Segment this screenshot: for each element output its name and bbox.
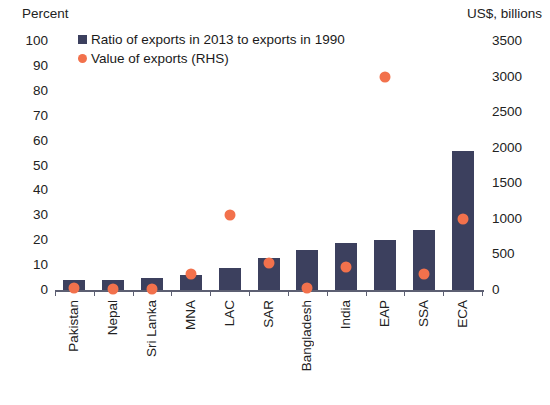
dot-bangladesh bbox=[302, 282, 313, 293]
right-tick-2000: 2000 bbox=[492, 141, 522, 155]
x-label-ssa: SSA bbox=[416, 300, 431, 327]
x-label-sar: SAR bbox=[261, 300, 276, 328]
dot-ssa bbox=[418, 268, 429, 279]
left-tick-100: 100 bbox=[8, 34, 48, 48]
left-axis-title: Percent bbox=[22, 6, 69, 21]
x-tick-mark bbox=[249, 292, 250, 296]
x-tick-mark bbox=[55, 292, 56, 296]
left-tick-60: 60 bbox=[8, 134, 48, 148]
x-label-india: India bbox=[338, 300, 353, 329]
x-tick-mark bbox=[404, 292, 405, 296]
left-tick-0: 0 bbox=[8, 283, 48, 297]
dot-sar bbox=[263, 257, 274, 268]
left-tick-20: 20 bbox=[8, 233, 48, 247]
dot-nepal bbox=[108, 284, 119, 295]
dot-india bbox=[341, 262, 352, 273]
right-tick-1500: 1500 bbox=[492, 177, 522, 191]
x-tick-mark bbox=[443, 292, 444, 296]
dot-sri-lanka bbox=[147, 283, 158, 294]
x-tick-mark bbox=[210, 292, 211, 296]
dot-mna bbox=[185, 268, 196, 279]
dot-lac bbox=[224, 210, 235, 221]
x-axis-baseline bbox=[55, 290, 484, 292]
right-axis-title: US$, billions bbox=[467, 6, 542, 21]
x-label-eca: ECA bbox=[455, 300, 470, 328]
left-tick-30: 30 bbox=[8, 209, 48, 223]
x-label-pakistan: Pakistan bbox=[66, 300, 81, 352]
dot-pakistan bbox=[69, 282, 80, 293]
x-tick-mark bbox=[366, 292, 367, 296]
x-tick-mark bbox=[327, 292, 328, 296]
right-tick-0: 0 bbox=[492, 283, 500, 297]
bar-ssa bbox=[413, 230, 435, 290]
left-tick-10: 10 bbox=[8, 258, 48, 272]
x-tick-mark bbox=[482, 292, 483, 296]
x-tick-mark bbox=[133, 292, 134, 296]
left-tick-90: 90 bbox=[8, 59, 48, 73]
right-tick-3000: 3000 bbox=[492, 70, 522, 84]
x-tick-mark bbox=[288, 292, 289, 296]
dot-eap bbox=[379, 71, 390, 82]
plot-area bbox=[55, 41, 482, 290]
left-tick-40: 40 bbox=[8, 184, 48, 198]
x-label-mna: MNA bbox=[183, 300, 198, 330]
bar-eap bbox=[374, 240, 396, 290]
x-label-lac: LAC bbox=[222, 300, 237, 326]
x-label-eap: EAP bbox=[377, 300, 392, 327]
x-tick-mark bbox=[94, 292, 95, 296]
x-tick-mark bbox=[171, 292, 172, 296]
export-ratio-chart: Percent US$, billions Ratio of exports i… bbox=[0, 0, 550, 405]
bar-lac bbox=[219, 268, 241, 290]
right-tick-500: 500 bbox=[492, 248, 515, 262]
right-tick-2500: 2500 bbox=[492, 105, 522, 119]
left-tick-50: 50 bbox=[8, 159, 48, 173]
left-tick-70: 70 bbox=[8, 109, 48, 123]
x-label-sri-lanka: Sri Lanka bbox=[144, 300, 159, 357]
right-tick-3500: 3500 bbox=[492, 34, 522, 48]
x-label-bangladesh: Bangladesh bbox=[299, 300, 314, 371]
right-tick-1000: 1000 bbox=[492, 212, 522, 226]
left-tick-80: 80 bbox=[8, 84, 48, 98]
x-label-nepal: Nepal bbox=[105, 300, 120, 335]
dot-eca bbox=[457, 213, 468, 224]
